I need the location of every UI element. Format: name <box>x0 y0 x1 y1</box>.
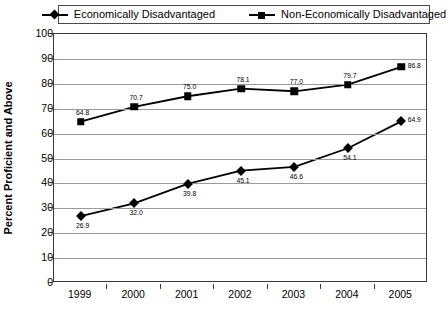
x-tick-label: 2004 <box>335 289 358 300</box>
y-axis-title-text: Percent Proficient and Above <box>2 81 14 234</box>
data-point-label: 39.8 <box>183 190 196 197</box>
data-point-label: 86.8 <box>408 62 421 69</box>
data-point-marker <box>237 85 245 93</box>
gridline <box>54 109 426 110</box>
data-point-label: 64.8 <box>76 109 89 116</box>
data-point-marker <box>130 103 138 111</box>
gridline <box>54 233 426 234</box>
x-tick-mark <box>320 284 321 289</box>
x-tick-label: 1999 <box>68 289 91 300</box>
gridline <box>54 134 426 135</box>
data-point-marker <box>344 81 352 89</box>
y-axis: 0102030405060708090100 <box>16 33 53 282</box>
x-tick-label: 2005 <box>389 289 412 300</box>
x-tick-mark <box>213 284 214 289</box>
x-tick-mark <box>106 284 107 289</box>
diamond-marker-icon <box>42 9 68 20</box>
x-tick-mark <box>267 284 268 289</box>
x-tick-mark <box>374 284 375 289</box>
gridline <box>54 258 426 259</box>
gridline <box>54 59 426 60</box>
data-point-marker <box>398 63 406 71</box>
data-point-label: 64.9 <box>408 116 421 123</box>
data-point-marker <box>184 93 192 101</box>
legend-item-non-economically-disadvantaged: Non-Economically Disadvantaged <box>249 9 446 20</box>
data-point-label: 79.7 <box>343 72 356 79</box>
legend-item-economically-disadvantaged: Economically Disadvantaged <box>42 9 215 20</box>
y-axis-title: Percent Proficient and Above <box>0 33 16 282</box>
x-tick-label: 2001 <box>175 289 198 300</box>
chart-legend: Economically Disadvantaged Non-Economica… <box>58 5 430 24</box>
x-axis: 1999200020012002200320042005 <box>53 284 427 302</box>
x-tick-label: 2003 <box>282 289 305 300</box>
data-point-marker <box>291 88 299 96</box>
data-point-marker <box>77 118 85 126</box>
chart-container: Economically Disadvantaged Non-Economica… <box>0 0 448 309</box>
y-tick-mark <box>48 282 53 283</box>
data-point-label: 75.0 <box>183 83 196 90</box>
square-marker-icon <box>249 9 275 20</box>
x-tick-mark <box>160 284 161 289</box>
x-tick-label: 2002 <box>228 289 251 300</box>
data-point-label: 77.0 <box>290 78 303 85</box>
data-point-label: 70.7 <box>130 94 143 101</box>
data-point-label: 54.1 <box>343 154 356 161</box>
plot-area: 26.932.039.845.146.654.164.964.870.775.0… <box>53 33 427 282</box>
data-point-label: 26.9 <box>76 222 89 229</box>
legend-label-non-economically-disadvantaged: Non-Economically Disadvantaged <box>281 9 446 20</box>
gridline <box>54 159 426 160</box>
data-point-label: 46.6 <box>290 173 303 180</box>
data-point-label: 32.0 <box>130 209 143 216</box>
x-tick-label: 2000 <box>121 289 144 300</box>
data-point-label: 45.1 <box>236 177 249 184</box>
legend-label-economically-disadvantaged: Economically Disadvantaged <box>74 9 215 20</box>
data-point-label: 78.1 <box>236 76 249 83</box>
gridline <box>54 208 426 209</box>
